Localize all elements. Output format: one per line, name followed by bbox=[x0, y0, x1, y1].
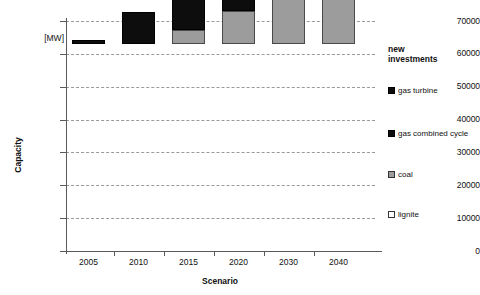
bar-segment-gas-turbine bbox=[72, 40, 105, 44]
y-tick-mark bbox=[60, 218, 67, 219]
legend: new investments gas turbine gas combined… bbox=[388, 44, 480, 64]
y-tick-label-40000: 40000 bbox=[432, 115, 480, 124]
y-tick-mark bbox=[60, 120, 67, 121]
gridline-30000 bbox=[66, 152, 375, 153]
x-axis-title: Scenario bbox=[150, 276, 290, 286]
legend-label-lignite: lignite bbox=[398, 210, 419, 219]
legend-item-gas-combined-cycle[interactable]: gas combined cycle bbox=[388, 129, 468, 138]
y-tick-mark bbox=[60, 54, 67, 55]
bar-segment-coal bbox=[272, 0, 305, 44]
y-tick-label-0: 0 bbox=[432, 247, 480, 256]
gridline-50000 bbox=[66, 87, 375, 88]
y-tick-label-10000: 10000 bbox=[432, 214, 480, 223]
legend-item-coal[interactable]: coal bbox=[388, 170, 413, 179]
gridline-20000 bbox=[66, 185, 375, 186]
bar-segment-gas-turbine bbox=[172, 0, 205, 30]
y-axis-unit-label: [MW] bbox=[18, 33, 64, 43]
legend-label-gas-combined-cycle: gas combined cycle bbox=[398, 129, 468, 138]
legend-title-line-1: new bbox=[388, 44, 458, 54]
y-tick-mark bbox=[60, 152, 67, 153]
x-tick-mark bbox=[114, 251, 115, 256]
y-tick-label-70000: 70000 bbox=[432, 17, 480, 26]
gridline-10000 bbox=[66, 218, 375, 219]
bar-2020[interactable] bbox=[222, 0, 255, 44]
legend-swatch-gray-icon bbox=[388, 171, 395, 178]
legend-item-gas-turbine[interactable]: gas turbine bbox=[388, 86, 438, 95]
legend-swatch-black-icon bbox=[388, 130, 395, 137]
bar-segment-coal bbox=[322, 0, 355, 44]
x-tick-label-2005: 2005 bbox=[65, 257, 113, 267]
x-tick-label-2015: 2015 bbox=[165, 257, 213, 267]
x-tick-mark bbox=[164, 251, 165, 256]
gridline-60000 bbox=[66, 54, 375, 55]
legend-label-coal: coal bbox=[398, 170, 413, 179]
capacity-stacked-bar-chart: 70000 60000 50000 40000 30000 20000 1000… bbox=[0, 0, 480, 295]
y-axis-title: Capacity bbox=[13, 115, 23, 195]
x-tick-label-2020: 2020 bbox=[215, 257, 263, 267]
x-tick-mark bbox=[214, 251, 215, 256]
y-tick-label-20000: 20000 bbox=[432, 181, 480, 190]
y-tick-mark bbox=[60, 185, 67, 186]
gridline-40000 bbox=[66, 120, 375, 121]
x-tick-mark bbox=[264, 251, 265, 256]
x-axis-line bbox=[60, 251, 382, 252]
legend-label-gas-turbine: gas turbine bbox=[398, 86, 438, 95]
y-tick-mark bbox=[60, 251, 67, 252]
x-tick-label-2040: 2040 bbox=[315, 257, 363, 267]
legend-item-lignite[interactable]: lignite bbox=[388, 210, 419, 219]
bar-segment-gas-turbine bbox=[122, 12, 155, 44]
y-tick-mark bbox=[60, 21, 67, 22]
bar-2010[interactable] bbox=[122, 12, 155, 44]
x-tick-mark bbox=[314, 251, 315, 256]
legend-title: new investments bbox=[388, 44, 458, 64]
bar-segment-coal bbox=[222, 11, 255, 45]
legend-swatch-white-icon bbox=[388, 211, 395, 218]
bar-2040[interactable] bbox=[322, 0, 355, 44]
y-tick-label-50000: 50000 bbox=[432, 82, 480, 91]
x-tick-label-2010: 2010 bbox=[115, 257, 163, 267]
bar-segment-gas-turbine bbox=[222, 0, 255, 11]
bar-2015[interactable] bbox=[172, 0, 205, 44]
bar-segment-coal bbox=[172, 30, 205, 44]
legend-title-line-2: investments bbox=[388, 54, 458, 64]
legend-swatch-black-icon bbox=[388, 87, 395, 94]
y-tick-mark bbox=[60, 87, 67, 88]
bar-2005[interactable] bbox=[72, 40, 105, 44]
x-tick-label-2030: 2030 bbox=[265, 257, 313, 267]
y-tick-label-30000: 30000 bbox=[432, 148, 480, 157]
bar-2030[interactable] bbox=[272, 0, 305, 44]
